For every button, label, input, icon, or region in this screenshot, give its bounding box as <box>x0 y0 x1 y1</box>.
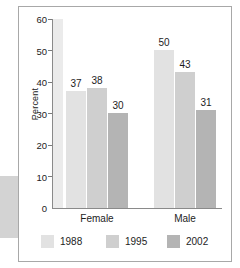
legend-swatch-icon <box>167 235 180 248</box>
legend-swatch-icon <box>41 235 54 248</box>
legend-label: 2002 <box>186 236 208 247</box>
bar-female-1988[interactable] <box>66 91 86 208</box>
bar-female-2002[interactable] <box>108 113 128 208</box>
chart-figure: Percent 60 50 40 30 20 10 0 37 38 30 50 <box>18 6 232 262</box>
bar-value-label: 37 <box>70 78 81 89</box>
legend-label: 1995 <box>125 236 147 247</box>
bar-male-2002[interactable] <box>196 110 216 208</box>
bar-value-label: 31 <box>200 97 211 108</box>
legend-swatch-icon <box>106 235 119 248</box>
y-tick-label: 40 <box>21 77 47 88</box>
legend-item-1988[interactable]: 1988 <box>41 235 82 248</box>
y-axis-ticks: 60 50 40 30 20 10 0 <box>21 7 47 263</box>
tick-mark <box>48 113 52 114</box>
y-tick-label: 30 <box>21 108 47 119</box>
bar-value-label: 43 <box>179 59 190 70</box>
bar-value-label: 38 <box>91 75 102 86</box>
y-tick-label: 0 <box>21 203 47 214</box>
y-axis-line <box>52 19 53 209</box>
bar-value-label: 50 <box>158 37 169 48</box>
tick-mark <box>48 176 52 177</box>
tick-mark <box>48 82 52 83</box>
tick-mark <box>48 145 52 146</box>
tick-mark <box>48 19 52 20</box>
x-category-label-male: Male <box>174 213 196 224</box>
y-tick-label: 20 <box>21 140 47 151</box>
plot-area: Percent 60 50 40 30 20 10 0 37 38 30 50 <box>19 7 233 263</box>
chart-legend: 1988 1995 2002 <box>19 235 233 255</box>
legend-item-1995[interactable]: 1995 <box>106 235 147 248</box>
bar-value-label: 30 <box>112 100 123 111</box>
tick-mark <box>48 50 52 51</box>
y-tick-label: 60 <box>21 14 47 25</box>
legend-item-2002[interactable]: 2002 <box>167 235 208 248</box>
bar-female-1995[interactable] <box>87 88 107 208</box>
x-axis-line <box>52 208 222 209</box>
axis-band <box>53 19 63 208</box>
bar-male-1995[interactable] <box>175 72 195 208</box>
y-tick-label: 10 <box>21 171 47 182</box>
y-tick-label: 50 <box>21 45 47 56</box>
legend-label: 1988 <box>60 236 82 247</box>
bar-male-1988[interactable] <box>154 50 174 208</box>
x-category-label-female: Female <box>80 213 113 224</box>
